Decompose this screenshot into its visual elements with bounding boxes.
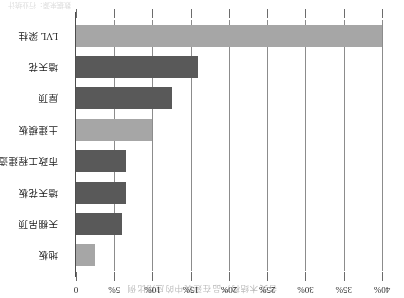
axis-tick [76, 272, 77, 281]
category-label: 天棚吊顶 [18, 213, 76, 235]
category-label: 屋顶 [38, 87, 76, 109]
axis-tick-label: 10% [144, 285, 161, 295]
category-label: 市政工程建造 [0, 150, 76, 172]
bar[interactable] [76, 150, 126, 172]
bar-chart-figure: 各类木结构产品在建筑中的应用比例 05%10%15%20%25%30%35%40… [0, 0, 404, 298]
axis-tick-label: 15% [183, 285, 200, 295]
category-label: 地板 [38, 244, 76, 266]
axis-tick [267, 272, 268, 281]
axis-tick [344, 272, 345, 281]
axis-tick-label: 20% [221, 285, 238, 295]
bar[interactable] [76, 56, 198, 78]
bar-row[interactable]: 墙天花板 [76, 182, 382, 204]
category-label: 墙天花 [28, 56, 76, 78]
axis-tick-label: 35% [336, 285, 353, 295]
bar-row[interactable]: 地板 [76, 244, 382, 266]
axis-tick-label: 25% [259, 285, 276, 295]
category-label: LVL 梁柱 [18, 25, 76, 47]
axis-tick [306, 272, 307, 281]
axis-tick [153, 272, 154, 281]
value-axis-baseline [75, 12, 76, 277]
plot-area: 05%10%15%20%25%30%35%40% 地板天棚吊顶墙天花板市政工程建… [76, 20, 382, 271]
bar[interactable] [76, 25, 382, 47]
bar-row[interactable]: 屋顶 [76, 87, 382, 109]
bar[interactable] [76, 119, 153, 141]
axis-tick-label: 5% [108, 285, 120, 295]
axis-tick [114, 272, 115, 281]
axis-tick-label: 0 [74, 285, 79, 295]
category-label: 墙天花板 [18, 182, 76, 204]
axis-tick [229, 272, 230, 281]
category-label: 土建模板 [18, 119, 76, 141]
axis-tick-label: 40% [374, 285, 391, 295]
bar[interactable] [76, 244, 95, 266]
axis-tick [191, 272, 192, 281]
bar-row[interactable]: 墙天花 [76, 56, 382, 78]
gridline [382, 20, 383, 271]
bar-row[interactable]: 土建模板 [76, 119, 382, 141]
bar-row[interactable]: LVL 梁柱 [76, 25, 382, 47]
bar[interactable] [76, 87, 172, 109]
axis-tick-label: 30% [297, 285, 314, 295]
bar-row[interactable]: 市政工程建造 [76, 150, 382, 172]
bar-row[interactable]: 天棚吊顶 [76, 213, 382, 235]
chart-footnote: 数据来源：行业统计 [8, 1, 404, 11]
bar[interactable] [76, 182, 126, 204]
axis-tick [382, 272, 383, 281]
bar[interactable] [76, 213, 122, 235]
